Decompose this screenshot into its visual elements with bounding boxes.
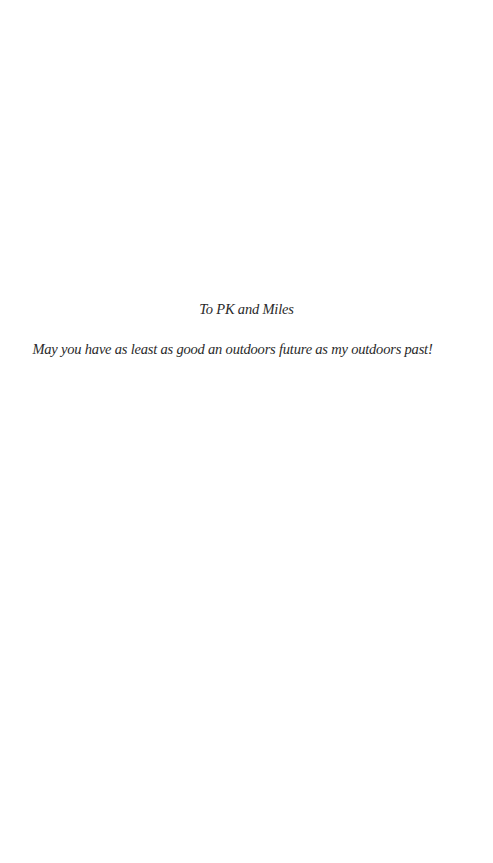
dedication-page: To PK and Miles May you have as least as… bbox=[0, 0, 493, 863]
dedication-message: May you have as least as good an outdoor… bbox=[0, 341, 479, 358]
dedication-recipients: To PK and Miles bbox=[0, 301, 493, 318]
